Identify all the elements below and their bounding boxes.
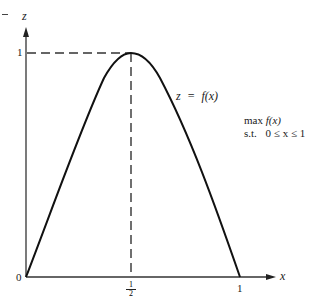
x-tick-half-label: 1 2 [126,281,136,298]
curve-label: z = f(x) [176,90,218,102]
objective-prefix: max [244,114,263,126]
z-axis-arrow-icon [23,27,29,37]
constraint-prefix: s.t. [244,127,257,139]
curve-label-rhs: f(x) [201,89,218,103]
x-axis-arrow-icon [266,274,276,280]
objective-text: max f(x) [244,115,281,126]
constraint-expression: 0 ≤ x ≤ 1 [266,127,306,139]
origin-label: 0 [16,272,22,283]
diagram-canvas: z 1 0 1 2 1 x z = f(x) max f(x) s.t. 0 ≤… [0,0,332,308]
z-axis-label: z [22,10,27,22]
x-tick-one-label: 1 [237,283,243,294]
constraint-text: s.t. 0 ≤ x ≤ 1 [244,128,305,139]
curve-label-lhs: z [176,89,181,103]
fraction-denominator: 2 [126,290,136,298]
function-curve [26,53,240,277]
x-axis-label: x [280,270,285,282]
z-tick-label: 1 [17,47,23,58]
objective-function: f(x) [266,114,281,126]
plot-svg [0,0,332,308]
curve-label-eq: = [188,89,195,103]
